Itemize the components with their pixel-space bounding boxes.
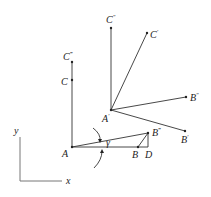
point-C2-dot — [110, 27, 112, 29]
point-B3-dot — [147, 132, 149, 134]
line-A1-B1 — [111, 110, 185, 131]
label-B1: B′ — [181, 134, 189, 145]
y-axis-label: y — [13, 125, 19, 136]
rigid-body-rotation-diagram: y x γ A B D C C‴ — [0, 0, 211, 197]
label-B2: B″ — [190, 92, 199, 103]
point-labels: A B D C C‴ B‴ A′ C″ C′ B″ B′ — [61, 14, 199, 160]
displaced-body — [110, 27, 187, 132]
point-A-dot — [71, 146, 73, 148]
point-C1-dot — [146, 32, 148, 34]
label-D: D — [144, 149, 153, 160]
label-A: A — [61, 148, 69, 159]
original-body — [71, 61, 149, 148]
point-B1-dot — [184, 130, 186, 132]
lower-curved-arrow — [94, 151, 102, 168]
rotation-arrows: γ — [93, 128, 111, 168]
label-C3: C‴ — [63, 51, 73, 62]
lower-arrowhead-icon — [100, 149, 104, 153]
line-A1-C1 — [111, 33, 147, 110]
label-C: C — [61, 76, 68, 87]
point-C-dot — [71, 79, 73, 81]
point-B2-dot — [185, 96, 187, 98]
point-C3-dot — [71, 61, 73, 63]
line-A-B3 — [72, 133, 148, 147]
point-B-dot — [137, 146, 139, 148]
label-C2: C″ — [106, 14, 116, 25]
x-axis-label: x — [65, 175, 71, 186]
line-B-B3 — [138, 133, 148, 147]
line-A1-B2 — [111, 97, 186, 110]
label-B3: B‴ — [152, 127, 161, 138]
label-B: B — [132, 149, 138, 160]
point-A1-dot — [110, 109, 112, 111]
label-C1: C′ — [150, 29, 159, 40]
label-A1: A′ — [101, 113, 110, 124]
angle-gamma-label: γ — [106, 137, 111, 148]
